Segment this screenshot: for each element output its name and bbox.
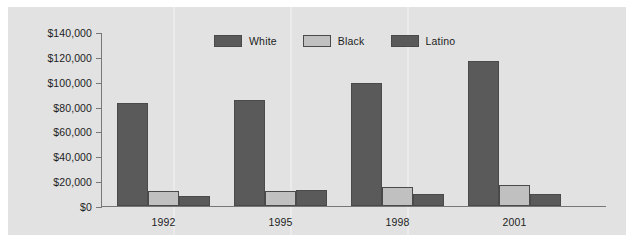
x-tick-label: 1992 — [151, 216, 175, 228]
bar-latino-1995 — [296, 190, 327, 206]
plot-area: $0$20,000$40,000$60,000$80,000$100,000$1… — [101, 33, 606, 207]
bar-latino-2001 — [530, 194, 561, 206]
y-tick-label: $0 — [80, 201, 92, 213]
bar-white-1995 — [234, 100, 265, 206]
y-tick-label: $20,000 — [53, 176, 92, 188]
y-tick-mark — [96, 108, 102, 109]
y-tick-mark — [96, 157, 102, 158]
y-tick-mark — [96, 182, 102, 183]
bar-white-1998 — [351, 83, 382, 206]
y-tick-mark — [96, 33, 102, 34]
x-axis-line — [101, 206, 606, 207]
bar-group-1992: 1992 — [117, 33, 210, 206]
x-tick-label: 1998 — [385, 216, 409, 228]
y-tick-label: $80,000 — [53, 102, 92, 114]
bar-white-1992 — [117, 103, 148, 206]
y-tick-mark — [96, 207, 102, 208]
y-axis-line — [101, 33, 102, 207]
bar-latino-1998 — [413, 194, 444, 206]
bar-black-1992 — [148, 191, 179, 206]
chart-figure: WhiteBlackLatino $0$20,000$40,000$60,000… — [8, 7, 626, 235]
y-tick-mark — [96, 132, 102, 133]
bar-black-2001 — [499, 185, 530, 206]
bar-black-1995 — [265, 191, 296, 206]
bar-group-2001: 2001 — [468, 33, 561, 206]
y-tick-label: $60,000 — [53, 126, 92, 138]
bar-group-1995: 1995 — [234, 33, 327, 206]
y-tick-label: $40,000 — [53, 151, 92, 163]
y-tick-label: $140,000 — [47, 27, 92, 39]
bar-group-1998: 1998 — [351, 33, 444, 206]
y-tick-label: $100,000 — [47, 77, 92, 89]
bar-black-1998 — [382, 187, 413, 206]
x-tick-label: 1995 — [268, 216, 292, 228]
y-tick-mark — [96, 58, 102, 59]
x-tick-label: 2001 — [502, 216, 526, 228]
bar-latino-1992 — [179, 196, 210, 206]
y-tick-mark — [96, 83, 102, 84]
bar-white-2001 — [468, 61, 499, 206]
y-tick-label: $120,000 — [47, 52, 92, 64]
